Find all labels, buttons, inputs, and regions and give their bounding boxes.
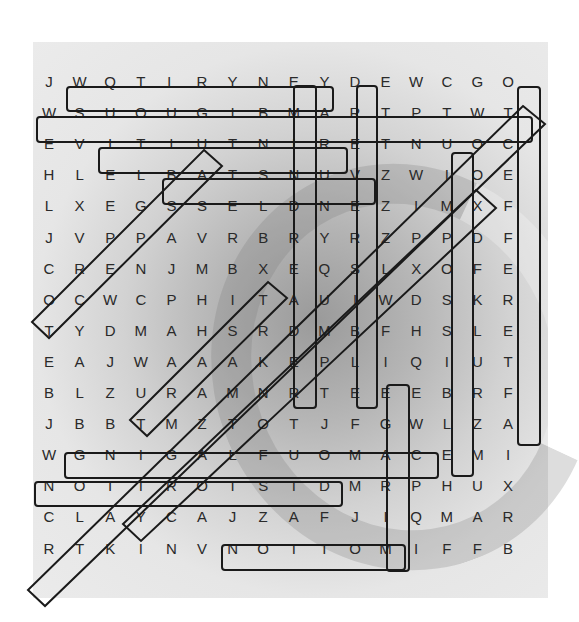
grid-cell[interactable]: I (279, 534, 309, 564)
grid-cell[interactable]: A (187, 440, 217, 470)
grid-cell[interactable]: L (65, 378, 95, 408)
grid-cell[interactable]: A (65, 347, 95, 377)
grid-cell[interactable]: R (187, 67, 217, 97)
grid-cell[interactable]: A (187, 347, 217, 377)
grid-cell[interactable]: V (187, 534, 217, 564)
grid-cell[interactable]: T (309, 534, 339, 564)
grid-cell[interactable]: C (432, 67, 462, 97)
grid-cell[interactable]: P (401, 471, 431, 501)
grid-cell[interactable]: L (156, 67, 186, 97)
grid-cell[interactable]: K (462, 285, 492, 315)
grid-cell[interactable]: X (493, 471, 523, 501)
grid-cell[interactable]: A (187, 378, 217, 408)
grid-cell[interactable]: S (156, 191, 186, 221)
grid-cell[interactable]: U (156, 98, 186, 128)
grid-cell[interactable]: I (371, 347, 401, 377)
grid-cell[interactable]: T (34, 316, 64, 346)
grid-cell[interactable]: C (126, 285, 156, 315)
grid-cell[interactable]: X (248, 254, 278, 284)
grid-cell[interactable]: J (218, 502, 248, 532)
grid-cell[interactable]: U (187, 129, 217, 159)
grid-cell[interactable]: K (248, 347, 278, 377)
word-search-grid[interactable]: JWQTLRYNEYDEWCGOWSUOUGIBMARTPTWTEVITIUTN… (0, 0, 579, 622)
grid-cell[interactable]: O (34, 285, 64, 315)
grid-cell[interactable]: W (34, 98, 64, 128)
grid-cell[interactable]: E (279, 254, 309, 284)
grid-cell[interactable]: E (371, 378, 401, 408)
grid-cell[interactable]: L (65, 502, 95, 532)
grid-cell[interactable]: D (462, 223, 492, 253)
grid-cell[interactable]: O (248, 409, 278, 439)
grid-cell[interactable]: A (493, 409, 523, 439)
grid-cell[interactable]: B (432, 378, 462, 408)
grid-cell[interactable]: L (432, 409, 462, 439)
grid-cell[interactable]: Z (462, 409, 492, 439)
grid-cell[interactable]: T (248, 285, 278, 315)
grid-cell[interactable]: N (218, 534, 248, 564)
grid-cell[interactable]: F (309, 502, 339, 532)
grid-cell[interactable]: E (279, 67, 309, 97)
grid-cell[interactable]: M (432, 191, 462, 221)
grid-cell[interactable]: N (34, 471, 64, 501)
grid-cell[interactable]: I (156, 129, 186, 159)
grid-cell[interactable]: A (156, 316, 186, 346)
grid-cell[interactable]: I (371, 502, 401, 532)
grid-cell[interactable]: I (126, 440, 156, 470)
grid-cell[interactable]: Z (248, 502, 278, 532)
grid-cell[interactable]: E (493, 254, 523, 284)
grid-cell[interactable]: D (340, 67, 370, 97)
grid-cell[interactable]: T (65, 534, 95, 564)
grid-cell[interactable]: R (340, 98, 370, 128)
grid-cell[interactable]: J (34, 409, 64, 439)
grid-cell[interactable]: I (340, 285, 370, 315)
grid-cell[interactable]: L (340, 347, 370, 377)
grid-cell[interactable]: R (493, 502, 523, 532)
grid-cell[interactable]: E (371, 67, 401, 97)
grid-cell[interactable]: E (95, 160, 125, 190)
grid-cell[interactable]: F (432, 534, 462, 564)
grid-cell[interactable]: C (401, 440, 431, 470)
grid-cell[interactable]: D (309, 471, 339, 501)
grid-cell[interactable]: U (309, 285, 339, 315)
grid-cell[interactable]: A (187, 502, 217, 532)
grid-cell[interactable]: U (279, 440, 309, 470)
grid-cell[interactable]: L (126, 160, 156, 190)
grid-cell[interactable]: G (156, 440, 186, 470)
grid-cell[interactable]: B (34, 378, 64, 408)
grid-cell[interactable]: T (218, 409, 248, 439)
grid-cell[interactable]: W (126, 347, 156, 377)
grid-cell[interactable]: O (126, 98, 156, 128)
grid-cell[interactable]: J (34, 223, 64, 253)
grid-cell[interactable]: W (462, 98, 492, 128)
grid-cell[interactable]: L (371, 254, 401, 284)
grid-cell[interactable]: L (34, 191, 64, 221)
grid-cell[interactable]: V (65, 129, 95, 159)
grid-cell[interactable]: Z (371, 191, 401, 221)
grid-cell[interactable]: G (187, 98, 217, 128)
grid-cell[interactable]: E (279, 347, 309, 377)
grid-cell[interactable]: A (218, 347, 248, 377)
grid-cell[interactable]: R (371, 471, 401, 501)
grid-cell[interactable]: I (218, 98, 248, 128)
grid-cell[interactable]: F (340, 409, 370, 439)
grid-cell[interactable]: K (95, 534, 125, 564)
grid-cell[interactable]: E (432, 440, 462, 470)
grid-cell[interactable]: R (493, 285, 523, 315)
grid-cell[interactable]: N (279, 160, 309, 190)
grid-cell[interactable]: T (126, 471, 156, 501)
grid-cell[interactable]: Q (95, 67, 125, 97)
grid-cell[interactable]: X (65, 191, 95, 221)
grid-cell[interactable]: G (371, 409, 401, 439)
grid-cell[interactable]: O (462, 160, 492, 190)
grid-cell[interactable]: H (187, 285, 217, 315)
grid-cell[interactable]: X (401, 254, 431, 284)
grid-cell[interactable]: H (187, 316, 217, 346)
grid-cell[interactable]: R (65, 254, 95, 284)
grid-cell[interactable]: T (493, 347, 523, 377)
grid-cell[interactable]: O (432, 254, 462, 284)
grid-cell[interactable]: E (34, 347, 64, 377)
grid-cell[interactable]: E (340, 378, 370, 408)
grid-cell[interactable]: L (462, 316, 492, 346)
grid-cell[interactable]: M (218, 378, 248, 408)
grid-cell[interactable]: O (309, 440, 339, 470)
